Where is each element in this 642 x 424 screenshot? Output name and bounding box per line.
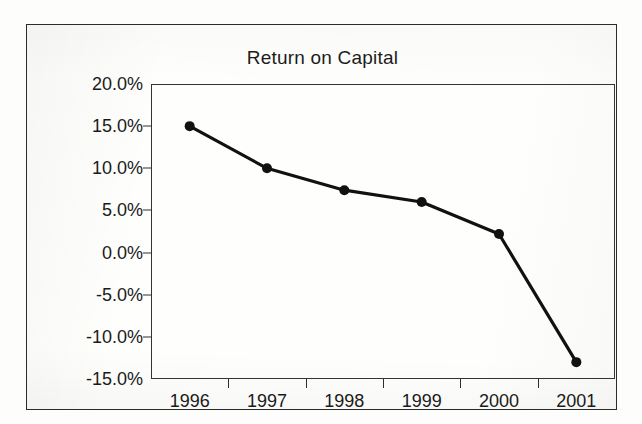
x-axis-labels: 199619971998199920002001 bbox=[151, 391, 615, 417]
data-point-marker bbox=[339, 185, 349, 195]
data-point-marker bbox=[185, 121, 195, 131]
data-series-line bbox=[151, 84, 615, 379]
data-point-marker bbox=[262, 163, 272, 173]
x-axis-tick-label: 1996 bbox=[170, 391, 210, 412]
x-axis-tick-mark bbox=[228, 379, 229, 388]
x-axis-tick-label: 2000 bbox=[479, 391, 519, 412]
data-point-marker bbox=[571, 357, 581, 367]
x-axis-tick-mark bbox=[460, 379, 461, 388]
x-axis-tick-label: 1998 bbox=[324, 391, 364, 412]
x-axis-tick-mark bbox=[383, 379, 384, 388]
x-axis-tick-mark bbox=[306, 379, 307, 388]
x-axis-tick-mark bbox=[538, 379, 539, 388]
data-point-marker bbox=[417, 197, 427, 207]
x-axis-tick-label: 1999 bbox=[402, 391, 442, 412]
y-axis-tick-marks bbox=[27, 84, 157, 379]
data-point-marker bbox=[494, 229, 504, 239]
x-axis-tick-label: 1997 bbox=[247, 391, 287, 412]
chart-frame: Return on Capital 20.0%15.0%10.0%5.0%0.0… bbox=[26, 24, 617, 410]
chart-screenshot: Return on Capital 20.0%15.0%10.0%5.0%0.0… bbox=[0, 0, 642, 424]
x-axis-tick-marks bbox=[151, 379, 615, 391]
chart-title: Return on Capital bbox=[27, 47, 618, 69]
x-axis-tick-label: 2001 bbox=[556, 391, 596, 412]
